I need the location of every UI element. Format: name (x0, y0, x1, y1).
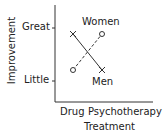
xtick-drug: Drug (60, 106, 85, 117)
xtick-psychotherapy: Psychotherapy (88, 106, 162, 117)
y-axis-label: Improvement (6, 17, 17, 84)
women-label: Women (82, 16, 120, 27)
men-label: Men (92, 76, 113, 87)
ytick-great: Great (22, 21, 50, 32)
x-axis-label: Treatment (84, 121, 135, 132)
ytick-little: Little (24, 74, 49, 85)
interaction-chart: Great Little Women Men Drug Psychotherap… (0, 0, 165, 137)
